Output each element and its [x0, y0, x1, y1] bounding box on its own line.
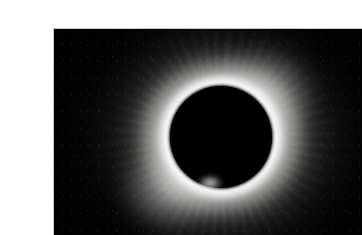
- eclipse-photo-frame: Black and white photograph of a total so…: [54, 29, 362, 235]
- lunar-occulting-disk: [170, 86, 272, 188]
- page-canvas: Black and white photograph of a total so…: [0, 0, 362, 235]
